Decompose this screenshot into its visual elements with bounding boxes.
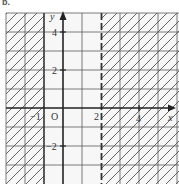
x-tick-label-minus-1: −1 xyxy=(30,111,41,122)
right-shaded-region xyxy=(101,13,179,184)
x-tick-label-4: 4 xyxy=(136,113,141,124)
inequality-graph: b. y x O 4 2 xyxy=(0,0,179,184)
y-tick-label-minus-2: −2 xyxy=(46,141,57,152)
x-axis-label: x xyxy=(167,112,173,123)
y-tick-label-4: 4 xyxy=(52,27,57,38)
origin-label: O xyxy=(51,111,58,122)
y-tick-label-2: 2 xyxy=(52,65,57,76)
y-axis-label: y xyxy=(49,11,55,22)
part-label: b. xyxy=(2,0,10,7)
x-tick-label-2: 2 xyxy=(94,111,99,122)
